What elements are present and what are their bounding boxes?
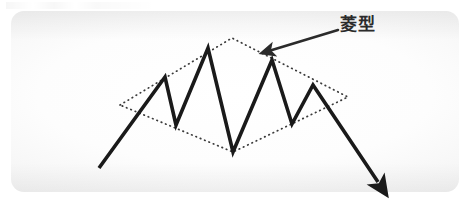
figure-root: 菱型 bbox=[0, 0, 471, 203]
diamond-pattern-diagram bbox=[0, 0, 471, 203]
diamond-boundary-dotted bbox=[120, 38, 348, 152]
price-zigzag-line bbox=[99, 48, 378, 182]
annotation-arrow bbox=[272, 30, 338, 50]
pattern-label: 菱型 bbox=[340, 16, 376, 33]
